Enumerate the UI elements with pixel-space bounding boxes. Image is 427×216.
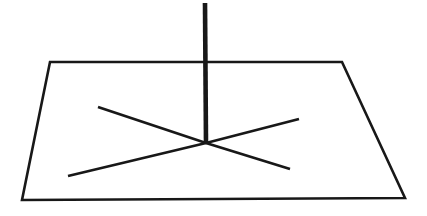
vertical-pole <box>205 3 206 144</box>
line-drawing-svg <box>0 0 427 216</box>
figure-canvas <box>0 0 427 216</box>
